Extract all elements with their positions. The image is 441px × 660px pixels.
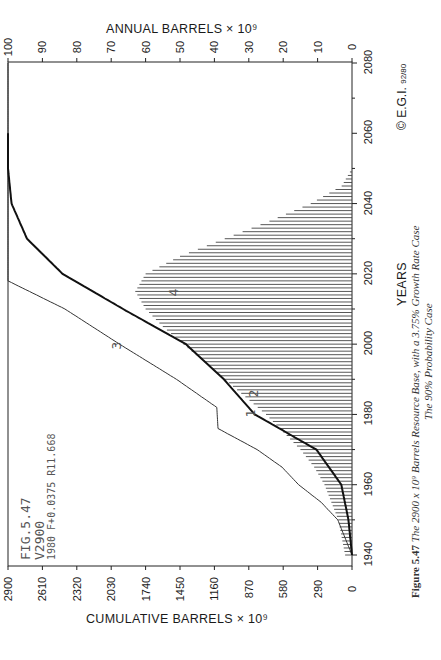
annual-axis-title: ANNUAL BARRELS × 10⁹ — [106, 22, 258, 36]
cumulative-tick-label: 1740 — [140, 569, 152, 609]
plot-frame — [8, 62, 352, 566]
params-label: 1980 F+0.0375 R11.668 — [46, 434, 57, 560]
year-tick-label: 1940 — [362, 534, 374, 574]
cumulative-tick-label: 2030 — [105, 569, 117, 609]
fig-label: FIG.5.47 — [18, 497, 33, 560]
cumulative-tick-label: 870 — [243, 569, 255, 609]
annual-tick-label: 90 — [36, 27, 48, 67]
resource-label: V2900 — [32, 521, 47, 560]
years-axis-title: YEARS — [395, 262, 409, 306]
year-tick-label: 2060 — [362, 112, 374, 152]
annual-tick-label: 80 — [71, 27, 83, 67]
cumulative-tick-label: 2610 — [36, 569, 48, 609]
cumulative-tick-label: 1160 — [208, 569, 220, 609]
year-axis-ticks — [352, 63, 357, 555]
figure-caption: Figure 5.47 The 2900 x 10⁹ Barrels Resou… — [409, 226, 421, 598]
year-tick-label: 2000 — [362, 323, 374, 363]
year-tick-label: 2020 — [362, 253, 374, 293]
year-tick-label: 2080 — [362, 42, 374, 82]
curve-label-3: 3 — [109, 342, 124, 350]
cumulative-tick-label: 290 — [312, 569, 324, 609]
chart-svg — [0, 0, 441, 660]
cumulative-tick-label: 0 — [346, 569, 358, 609]
annual-tick-label: 0 — [346, 27, 358, 67]
curve-label-1: 1 — [243, 410, 258, 418]
caption-line1: The 2900 x 10⁹ Barrels Resource Base, wi… — [409, 226, 421, 543]
figure-caption-line2: The 90% Probability Case — [422, 303, 434, 420]
copyright-date: 92/80 — [399, 64, 408, 84]
curve-label-2: 2 — [246, 390, 261, 398]
curve-label-4: 4 — [166, 289, 181, 297]
year-tick-label: 2040 — [362, 183, 374, 223]
cumulative-tick-label: 2900 — [2, 569, 14, 609]
annual-tick-label: 20 — [277, 27, 289, 67]
copyright: © E.G.I. 92/80 — [395, 64, 409, 130]
annual-production-bars — [135, 172, 352, 555]
year-tick-label: 1960 — [362, 464, 374, 504]
year-tick-label: 1980 — [362, 393, 374, 433]
annual-tick-label: 10 — [312, 27, 324, 67]
cumulative-tick-label: 1450 — [174, 569, 186, 609]
annual-tick-label: 100 — [2, 27, 14, 67]
copyright-text: © E.G.I. — [395, 87, 409, 130]
caption-prefix: Figure 5.47 — [409, 545, 421, 598]
cumulative-axis-title: CUMULATIVE BARRELS × 10⁹ — [86, 612, 268, 626]
cumulative-tick-label: 580 — [277, 569, 289, 609]
cumulative-tick-label: 2320 — [71, 569, 83, 609]
